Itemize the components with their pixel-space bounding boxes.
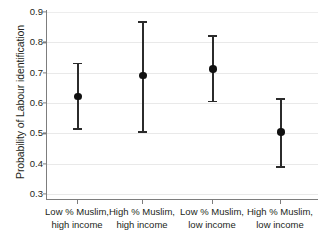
- x-tick-mark: [212, 199, 213, 204]
- chart-figure: Probability of Labour identification 0.3…: [0, 0, 322, 244]
- errorbar-cap-lower: [208, 101, 217, 103]
- x-tick-label-line: High % Muslim,: [109, 206, 175, 219]
- data-point-marker[interactable]: [209, 65, 217, 73]
- gridline: [47, 103, 318, 104]
- gridline: [47, 73, 318, 74]
- errorbar-cap-upper: [73, 63, 82, 65]
- data-point-marker[interactable]: [277, 128, 285, 136]
- y-tick-label: 0.8: [30, 38, 43, 48]
- x-tick-label: High % Muslim,high income: [109, 206, 175, 231]
- errorbar-cap-upper: [138, 21, 147, 23]
- errorbar-cap-upper: [208, 35, 217, 37]
- y-tick-mark: [43, 11, 47, 12]
- y-tick-label: 0.6: [30, 98, 43, 108]
- errorbar-cap-lower: [73, 128, 82, 130]
- data-point-marker[interactable]: [139, 72, 147, 80]
- gridline: [47, 12, 318, 13]
- y-tick-label: 0.9: [30, 7, 43, 17]
- y-tick-label: 0.7: [30, 68, 43, 78]
- gridline: [47, 194, 318, 195]
- x-tick-mark: [77, 199, 78, 204]
- y-tick-mark: [43, 42, 47, 43]
- x-tick-label: Low % Muslim,low income: [180, 206, 244, 231]
- x-tick-label-line: Low % Muslim,: [45, 206, 109, 219]
- errorbar-cap-lower: [276, 166, 285, 168]
- x-tick-mark: [280, 199, 281, 204]
- gridline: [47, 164, 318, 165]
- x-tick-label-line: high income: [45, 219, 109, 232]
- data-point-marker[interactable]: [74, 93, 82, 101]
- x-tick-label-line: high income: [109, 219, 175, 232]
- x-tick-label-line: Low % Muslim,: [180, 206, 244, 219]
- x-axis-line: [46, 199, 318, 200]
- y-tick-mark: [43, 163, 47, 164]
- x-tick-label: Low % Muslim,high income: [45, 206, 109, 231]
- plot-area: 0.30.40.50.60.70.80.9: [47, 12, 318, 194]
- y-tick-mark: [43, 102, 47, 103]
- y-tick-mark: [43, 193, 47, 194]
- x-tick-label-line: High % Muslim,: [247, 206, 313, 219]
- x-tick-mark: [142, 199, 143, 204]
- errorbar-cap-upper: [276, 98, 285, 100]
- y-tick-label: 0.4: [30, 159, 43, 169]
- y-tick-mark: [43, 72, 47, 73]
- y-tick-label: 0.5: [30, 129, 43, 139]
- y-tick-label: 0.3: [30, 189, 43, 199]
- y-axis-title: Probability of Labour identification: [14, 2, 26, 202]
- y-tick-mark: [43, 133, 47, 134]
- x-tick-label: High % Muslim,low income: [247, 206, 313, 231]
- x-tick-label-line: low income: [247, 219, 313, 232]
- gridline: [47, 42, 318, 43]
- errorbar-cap-lower: [138, 131, 147, 133]
- x-tick-label-line: low income: [180, 219, 244, 232]
